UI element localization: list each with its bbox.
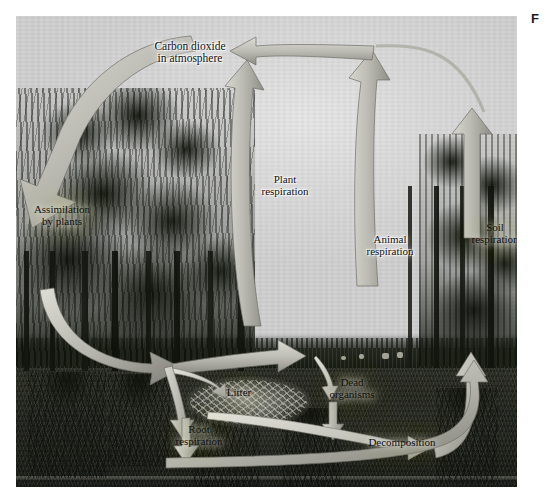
arrow-to-atmosphere-right <box>230 37 374 65</box>
arrow-soil-to-atmosphere-curve <box>376 46 484 112</box>
arrow-plants-to-ground <box>40 288 182 385</box>
arrow-plant-respiration <box>225 60 264 326</box>
flow-arrows-layer <box>16 16 517 487</box>
carbon-cycle-diagram-plate: Carbon dioxide in atmosphere Assimilatio… <box>16 16 517 487</box>
arrow-plants-to-animals <box>172 340 306 374</box>
arrow-assimilation-by-plants <box>20 36 196 228</box>
arrow-animals-to-dead-organisms <box>314 356 338 400</box>
arrow-soil-respiration <box>452 108 492 238</box>
arrow-animal-respiration <box>349 50 390 286</box>
figure-caption-marker: F <box>531 11 539 26</box>
